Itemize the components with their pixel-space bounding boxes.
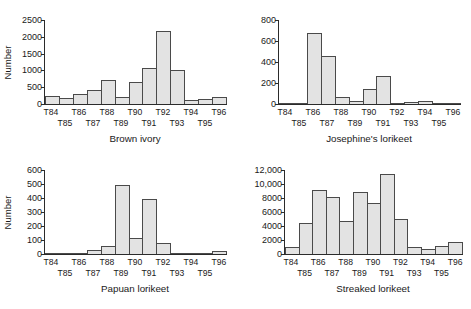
plot-area bbox=[284, 170, 463, 255]
y-tick-mark bbox=[41, 212, 45, 213]
bar bbox=[299, 223, 314, 255]
y-tick-label: 300 bbox=[27, 208, 42, 217]
x-tick-label: T91 bbox=[380, 257, 394, 281]
bar bbox=[212, 251, 227, 255]
y-tick-label: 200 bbox=[27, 222, 42, 231]
y-tick-mark bbox=[281, 198, 285, 199]
bar bbox=[87, 250, 102, 254]
panel-brown-ivory: Number 05001000150020002500 T84T85T86T87… bbox=[0, 2, 236, 154]
bar bbox=[184, 100, 199, 104]
bar bbox=[279, 103, 294, 104]
y-tick-mark bbox=[41, 104, 45, 105]
x-tick-label: T84 bbox=[278, 107, 292, 131]
y-axis-ticklabels: 0200040006000800010,00012,000 bbox=[248, 170, 282, 254]
panel-caption: Josephine's lorikeet bbox=[278, 133, 460, 144]
bar bbox=[390, 103, 405, 104]
bar bbox=[156, 243, 171, 254]
y-tick-mark bbox=[41, 240, 45, 241]
y-axis-ticklabels: 0200400600800 bbox=[242, 20, 276, 104]
x-tick-label: T89 bbox=[352, 257, 366, 281]
bar bbox=[448, 242, 463, 254]
x-tick-label: T84 bbox=[44, 257, 58, 281]
x-tick-label: T91 bbox=[376, 107, 390, 131]
bar bbox=[170, 253, 185, 254]
bar bbox=[435, 246, 450, 254]
y-tick-label: 200 bbox=[261, 79, 276, 88]
x-tick-label: T94 bbox=[184, 257, 198, 281]
bar bbox=[198, 99, 213, 104]
bar bbox=[129, 82, 144, 104]
x-tick-label: T88 bbox=[339, 257, 353, 281]
x-tick-label: T92 bbox=[156, 107, 170, 131]
x-tick-label: T88 bbox=[334, 107, 348, 131]
y-tick-mark bbox=[281, 254, 285, 255]
bar bbox=[394, 219, 409, 254]
bar bbox=[45, 253, 60, 254]
bar-series bbox=[285, 170, 463, 254]
y-tick-mark bbox=[281, 226, 285, 227]
x-tick-label: T95 bbox=[198, 107, 212, 131]
x-tick-label: T96 bbox=[212, 257, 226, 281]
plot-area bbox=[44, 170, 227, 255]
x-tick-label: T90 bbox=[128, 257, 142, 281]
bar bbox=[367, 203, 382, 254]
x-tick-label: T93 bbox=[404, 107, 418, 131]
y-tick-mark bbox=[41, 226, 45, 227]
y-tick-mark bbox=[41, 170, 45, 171]
y-tick-mark bbox=[275, 41, 279, 42]
x-tick-label: T89 bbox=[114, 107, 128, 131]
bar bbox=[380, 174, 395, 255]
y-tick-label: 1500 bbox=[22, 49, 42, 58]
bar bbox=[407, 247, 422, 254]
x-tick-label: T87 bbox=[86, 107, 100, 131]
bar bbox=[212, 97, 227, 104]
x-tick-label: T94 bbox=[418, 107, 432, 131]
bar bbox=[129, 238, 144, 254]
y-tick-mark bbox=[41, 198, 45, 199]
x-tick-label: T89 bbox=[114, 257, 128, 281]
y-tick-mark bbox=[41, 70, 45, 71]
x-tick-label: T90 bbox=[362, 107, 376, 131]
y-tick-mark bbox=[41, 184, 45, 185]
y-tick-label: 800 bbox=[261, 16, 276, 25]
bar bbox=[421, 249, 436, 254]
bar bbox=[142, 199, 157, 254]
x-tick-label: T85 bbox=[58, 107, 72, 131]
x-tick-label: T86 bbox=[72, 257, 86, 281]
x-tick-label: T85 bbox=[58, 257, 72, 281]
bar bbox=[326, 197, 341, 254]
y-tick-label: 400 bbox=[27, 194, 42, 203]
y-tick-mark bbox=[275, 104, 279, 105]
x-axis-ticklabels: T84T85T86T87T88T89T90T91T92T93T94T95T96 bbox=[284, 257, 462, 281]
x-tick-label: T94 bbox=[184, 107, 198, 131]
bar bbox=[363, 89, 378, 104]
plot-josephines-lorikeet: 0200400600800 T84T85T86T87T88T89T90T91T9… bbox=[236, 2, 471, 154]
bar bbox=[404, 102, 419, 104]
x-tick-label: T96 bbox=[212, 107, 226, 131]
x-tick-label: T85 bbox=[298, 257, 312, 281]
y-tick-label: 2500 bbox=[22, 16, 42, 25]
y-tick-mark bbox=[41, 37, 45, 38]
x-axis-ticklabels: T84T85T86T87T88T89T90T91T92T93T94T95T96 bbox=[44, 107, 226, 131]
x-tick-label: T93 bbox=[170, 107, 184, 131]
bar bbox=[101, 80, 116, 104]
bar bbox=[432, 103, 447, 104]
x-tick-label: T84 bbox=[44, 107, 58, 131]
y-tick-label: 600 bbox=[261, 37, 276, 46]
y-tick-mark bbox=[41, 54, 45, 55]
y-tick-mark bbox=[281, 170, 285, 171]
bar-series bbox=[45, 20, 227, 104]
y-tick-mark bbox=[281, 212, 285, 213]
y-tick-label: 8000 bbox=[262, 194, 282, 203]
bar bbox=[285, 247, 300, 254]
plot-brown-ivory: Number 05001000150020002500 T84T85T86T87… bbox=[0, 2, 236, 154]
y-tick-label: 400 bbox=[261, 58, 276, 67]
y-tick-label: 12,000 bbox=[254, 166, 282, 175]
bar bbox=[142, 68, 157, 104]
y-tick-label: 100 bbox=[27, 236, 42, 245]
y-tick-mark bbox=[275, 20, 279, 21]
x-tick-label: T89 bbox=[348, 107, 362, 131]
x-axis-ticklabels: T84T85T86T87T88T89T90T91T92T93T94T95T96 bbox=[44, 257, 226, 281]
bar bbox=[101, 246, 116, 254]
x-tick-label: T91 bbox=[142, 257, 156, 281]
